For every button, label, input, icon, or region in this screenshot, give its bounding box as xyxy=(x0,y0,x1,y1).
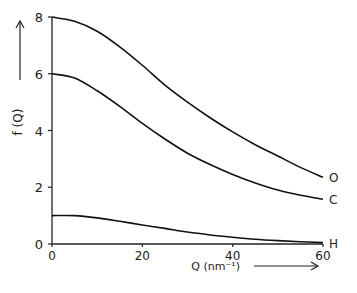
y-tick-label: 4 xyxy=(35,124,43,139)
y-tick-label: 8 xyxy=(35,10,43,25)
x-tick-label: 0 xyxy=(48,249,56,263)
curve-c xyxy=(52,74,323,199)
y-ticks: 02468 xyxy=(35,10,52,252)
y-tick-label: 6 xyxy=(35,67,43,82)
curve-label-c: C xyxy=(329,193,337,207)
curve-labels: OCH xyxy=(329,171,338,250)
x-tick-label: 20 xyxy=(135,249,150,263)
x-ticks: 0204060 xyxy=(48,244,330,263)
axes xyxy=(52,17,323,244)
x-axis-label: Q (nm⁻¹) xyxy=(191,260,240,273)
curve-h xyxy=(52,215,323,242)
x-tick-label: 60 xyxy=(315,249,330,263)
x-axis-arrow-icon xyxy=(254,262,318,270)
y-tick-label: 0 xyxy=(35,237,43,252)
y-axis-label: f (Q) xyxy=(11,109,25,136)
y-axis-arrow-icon xyxy=(16,21,24,80)
curve-label-h: H xyxy=(329,237,338,251)
curve-label-o: O xyxy=(329,171,338,185)
y-axis-label-text: f (Q) xyxy=(11,109,25,136)
curves xyxy=(52,17,323,243)
chart: 02468 0204060 OCH f (Q) Q (nm⁻¹) xyxy=(0,0,357,293)
y-tick-label: 2 xyxy=(35,180,43,195)
